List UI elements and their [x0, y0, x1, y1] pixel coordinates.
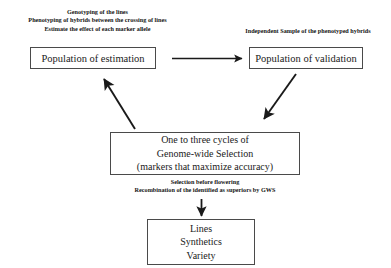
arrow-gws-to-estimation — [104, 79, 135, 129]
arrow-layer — [0, 0, 391, 268]
arrow-validation-to-gws — [264, 74, 296, 119]
diagram-canvas: Genotyping of the lines Phenotyping of h… — [0, 0, 391, 268]
